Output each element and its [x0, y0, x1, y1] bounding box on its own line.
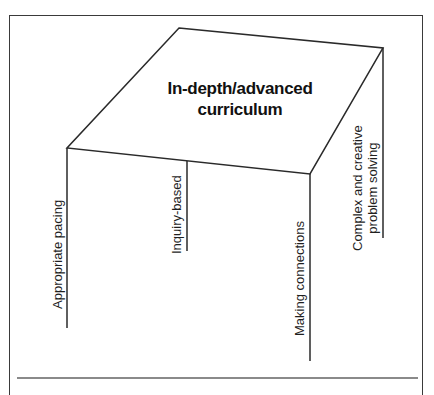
- bottom-rule: [17, 377, 418, 379]
- leg-label-inquiry-based: Inquiry-based: [169, 175, 184, 254]
- leg-label-line-1: Complex and creative: [350, 125, 365, 251]
- title-line-2: curriculum: [140, 99, 340, 120]
- leg-label-line-2: problem solving: [365, 125, 380, 251]
- leg-label-making-connections: Making connections: [292, 221, 307, 336]
- leg-label-complex-problem-solving: Complex and creative problem solving: [350, 125, 380, 251]
- table-top-title: In-depth/advanced curriculum: [140, 78, 340, 120]
- leg-label-appropriate-pacing: Appropriate pacing: [50, 200, 65, 309]
- title-line-1: In-depth/advanced: [140, 78, 340, 99]
